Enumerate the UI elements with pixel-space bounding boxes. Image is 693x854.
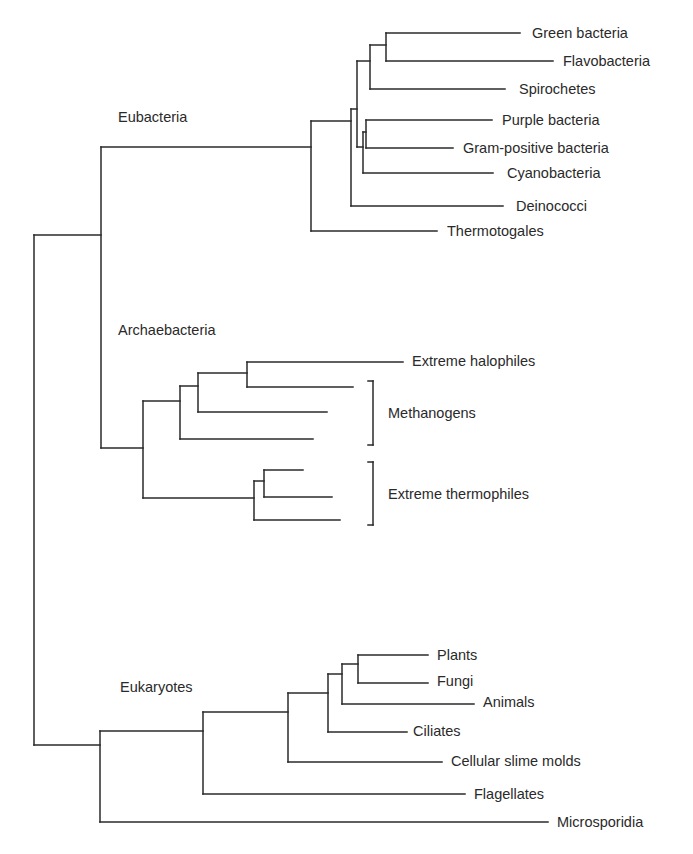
taxon-label-extreme-thermophiles: Extreme thermophiles (388, 486, 529, 502)
methanogens-bracket (368, 381, 373, 445)
clade-brackets (368, 381, 373, 525)
group-label-eubacteria: Eubacteria (118, 109, 188, 125)
taxon-label-flagellates: Flagellates (474, 786, 544, 802)
taxon-label-flavobacteria: Flavobacteria (563, 53, 651, 69)
taxon-label-plants: Plants (437, 647, 477, 663)
group-label-eukaryotes: Eukaryotes (120, 679, 193, 695)
taxon-label-gram-positive-bacteria: Gram-positive bacteria (463, 140, 610, 156)
taxon-label-animals: Animals (483, 694, 535, 710)
taxon-label-cyanobacteria: Cyanobacteria (507, 165, 601, 181)
taxon-label-methanogens: Methanogens (388, 405, 476, 421)
group-labels: EubacteriaArchaebacteriaEukaryotes (118, 109, 216, 695)
taxon-label-deinococci: Deinococci (516, 198, 587, 214)
taxon-label-ciliates: Ciliates (413, 723, 461, 739)
extreme-thermophiles-bracket (368, 462, 373, 525)
taxon-label-fungi: Fungi (437, 673, 473, 689)
taxon-label-extreme-halophiles: Extreme halophiles (412, 353, 535, 369)
group-label-archaebacteria: Archaebacteria (118, 322, 216, 338)
taxon-label-spirochetes: Spirochetes (519, 81, 596, 97)
taxon-labels: Green bacteriaFlavobacteriaSpirochetesPu… (388, 25, 651, 830)
taxon-label-purple-bacteria: Purple bacteria (502, 112, 600, 128)
taxon-label-green-bacteria: Green bacteria (532, 25, 629, 41)
taxon-label-microsporidia: Microsporidia (557, 814, 644, 830)
taxon-label-cellular-slime-molds: Cellular slime molds (451, 753, 581, 769)
taxon-label-thermotogales: Thermotogales (447, 223, 544, 239)
phylogenetic-tree: EubacteriaArchaebacteriaEukaryotes Green… (0, 0, 693, 854)
